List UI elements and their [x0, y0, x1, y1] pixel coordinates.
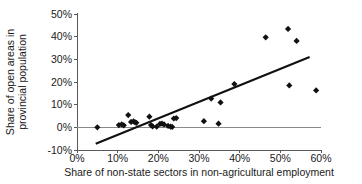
x-tick-label: 0% [69, 152, 84, 164]
data-point [146, 114, 152, 120]
y-axis-title-line-2: provincial population [16, 34, 28, 130]
data-point [313, 87, 319, 93]
x-tick-label: 40% [229, 152, 250, 164]
data-point [217, 99, 223, 105]
y-tick-label: 0% [57, 121, 72, 133]
y-axis-tick-labels: -10%0%10%20%30%40%50% [47, 8, 72, 156]
x-tick-label: 20% [148, 152, 169, 164]
x-tick-label: 50% [270, 152, 291, 164]
data-point [285, 26, 291, 32]
y-tick-label: 30% [51, 53, 72, 65]
x-axis-title: Share of non-state sectors in non-agricu… [64, 166, 334, 178]
trend-line [96, 57, 310, 144]
y-tick-label: 40% [51, 30, 72, 42]
data-point [286, 82, 292, 88]
data-point [263, 34, 269, 40]
data-point [94, 124, 100, 130]
y-tick-label: 10% [51, 98, 72, 110]
data-point [215, 121, 221, 127]
data-point [125, 112, 131, 118]
data-point-markers [94, 26, 319, 131]
axis-tick-marks [74, 14, 321, 153]
data-point [294, 38, 300, 44]
x-axis-tick-labels: 0%10%20%30%40%50%60% [69, 152, 331, 164]
data-point [201, 118, 207, 124]
scatter-chart: -10%0%10%20%30%40%50% 0%10%20%30%40%50%6… [0, 0, 362, 184]
x-tick-label: 30% [188, 152, 209, 164]
y-axis-title-line-1: Share of open areas in [4, 29, 16, 135]
y-tick-label: 50% [51, 8, 72, 20]
x-tick-label: 60% [310, 152, 331, 164]
y-tick-label: -10% [47, 144, 72, 156]
x-tick-label: 10% [107, 152, 128, 164]
chart-canvas: -10%0%10%20%30%40%50% 0%10%20%30%40%50%6… [0, 0, 362, 184]
y-tick-label: 20% [51, 76, 72, 88]
